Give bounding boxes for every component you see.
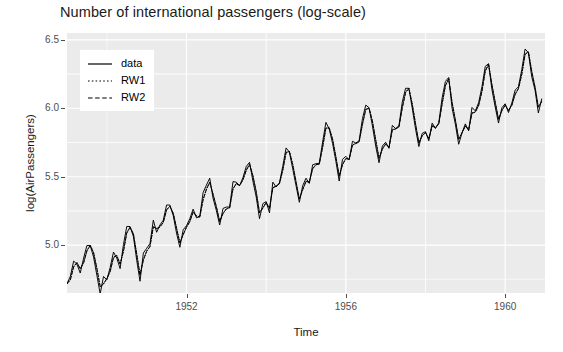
chart-container: Number of international passengers (log-… (0, 0, 563, 352)
legend-key-dashed-icon (87, 92, 113, 104)
y-tick-label: 5.0 (45, 239, 59, 250)
y-tick-mark (61, 245, 65, 246)
x-tick-mark (505, 294, 506, 298)
legend-item-data: data (87, 55, 145, 72)
legend-key-solid-icon (87, 58, 113, 70)
y-tick-mark (61, 177, 65, 178)
y-tick-label: 6.0 (45, 102, 59, 113)
legend-label: RW1 (121, 75, 145, 86)
legend-item-RW2: RW2 (87, 89, 145, 106)
y-axis-label: log(AirPassengers) (22, 33, 38, 293)
x-tick-label: 1956 (335, 301, 357, 312)
x-tick-mark (187, 294, 188, 298)
y-tick-label: 6.5 (45, 34, 59, 45)
legend-label: data (121, 58, 142, 69)
x-axis-label: Time (67, 326, 545, 338)
y-tick-mark (61, 40, 65, 41)
y-tick-mark (61, 108, 65, 109)
chart-legend: dataRW1RW2 (80, 50, 154, 111)
x-tick-label: 1952 (175, 301, 197, 312)
legend-key-dotted-icon (87, 75, 113, 87)
chart-title: Number of international passengers (log-… (60, 4, 366, 20)
legend-label: RW2 (121, 92, 145, 103)
x-tick-mark (346, 294, 347, 298)
legend-item-RW1: RW1 (87, 72, 145, 89)
x-tick-label: 1960 (494, 301, 516, 312)
y-tick-label: 5.5 (45, 171, 59, 182)
